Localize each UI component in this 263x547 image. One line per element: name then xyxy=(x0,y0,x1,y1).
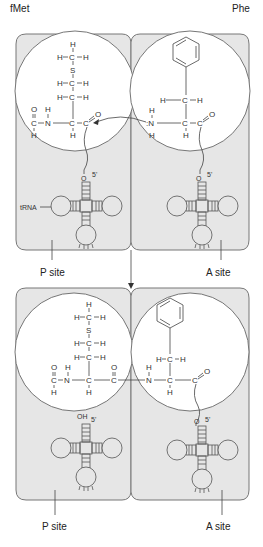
svg-text::N: :N xyxy=(146,119,154,128)
svg-text:H: H xyxy=(146,363,152,372)
svg-text:H: H xyxy=(160,96,166,105)
svg-text:H: H xyxy=(74,339,80,348)
svg-text:H: H xyxy=(100,339,106,348)
svg-text:H: H xyxy=(57,79,63,88)
svg-text:H: H xyxy=(149,131,155,140)
svg-text:C: C xyxy=(167,376,173,385)
svg-text:H: H xyxy=(31,131,37,140)
fmet-circle-bottom xyxy=(15,293,133,411)
svg-text:H: H xyxy=(57,53,63,62)
down-arrow-icon xyxy=(128,283,134,289)
svg-text:C: C xyxy=(69,119,75,128)
svg-text:5': 5' xyxy=(91,416,96,423)
svg-text:C: C xyxy=(167,355,173,364)
svg-text:N: N xyxy=(146,376,152,385)
svg-text:C: C xyxy=(83,119,89,128)
svg-text:C: C xyxy=(182,96,188,105)
trna-label: tRNA xyxy=(20,204,37,211)
svg-text:C: C xyxy=(69,53,75,62)
svg-text:C: C xyxy=(69,79,75,88)
svg-text:C: C xyxy=(192,376,198,385)
svg-text:O: O xyxy=(95,110,101,119)
p-site-label-bottom: P site xyxy=(42,521,67,532)
svg-text:C: C xyxy=(197,119,203,128)
p-site-label-top: P site xyxy=(40,267,65,278)
svg-text:N: N xyxy=(45,119,51,128)
svg-text:H: H xyxy=(74,313,80,322)
svg-text:H: H xyxy=(51,388,57,397)
svg-text:H: H xyxy=(70,40,76,49)
svg-text:C: C xyxy=(51,376,57,385)
svg-text:H: H xyxy=(83,79,89,88)
svg-text:H: H xyxy=(100,353,106,362)
svg-text:C: C xyxy=(86,376,92,385)
svg-text:S: S xyxy=(86,326,91,335)
svg-text:H: H xyxy=(100,313,106,322)
svg-text:O: O xyxy=(111,363,117,372)
svg-text:H: H xyxy=(57,93,63,102)
a-site-label-top: A site xyxy=(206,267,231,278)
svg-text:C: C xyxy=(86,313,92,322)
svg-text:H: H xyxy=(156,355,162,364)
svg-text:H: H xyxy=(65,363,71,372)
svg-text:O: O xyxy=(31,105,37,114)
svg-text:H: H xyxy=(197,96,203,105)
svg-text:C: C xyxy=(69,93,75,102)
svg-text:C: C xyxy=(31,119,37,128)
svg-text:O: O xyxy=(204,367,210,376)
svg-text:O: O xyxy=(209,110,215,119)
svg-text:H: H xyxy=(86,300,92,309)
svg-text:S: S xyxy=(70,66,75,75)
svg-text:5': 5' xyxy=(205,416,210,423)
svg-text:H: H xyxy=(167,388,173,397)
phe-label: Phe xyxy=(232,3,250,14)
svg-text:C: C xyxy=(86,339,92,348)
phe-circle-bottom xyxy=(131,293,249,411)
svg-text:O: O xyxy=(51,363,57,372)
svg-text:H: H xyxy=(183,131,189,140)
svg-text:H: H xyxy=(86,388,92,397)
svg-text:H: H xyxy=(83,93,89,102)
svg-text:O: O xyxy=(196,175,202,182)
svg-text:H: H xyxy=(149,106,155,115)
svg-text:O: O xyxy=(81,175,87,182)
svg-text:O: O xyxy=(194,418,200,425)
svg-text:H: H xyxy=(70,131,76,140)
svg-text:C: C xyxy=(182,119,188,128)
svg-text:OH: OH xyxy=(77,413,88,420)
a-site-label-bottom: A site xyxy=(206,521,231,532)
svg-text:H: H xyxy=(45,105,51,114)
svg-text:N: N xyxy=(64,376,70,385)
fmet-label: fMet xyxy=(10,3,30,14)
svg-text:H: H xyxy=(83,53,89,62)
svg-text:C: C xyxy=(111,376,117,385)
phe-circle xyxy=(130,31,250,151)
svg-text:H: H xyxy=(180,355,186,364)
svg-text:C: C xyxy=(86,353,92,362)
svg-text:5': 5' xyxy=(92,171,97,178)
svg-text:5': 5' xyxy=(207,171,212,178)
svg-text:H: H xyxy=(74,353,80,362)
peptide-bond-diagram: fMet Phe H H C H S H C H H C H O C H xyxy=(0,0,263,547)
